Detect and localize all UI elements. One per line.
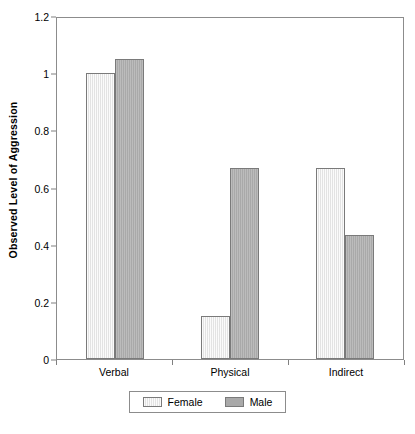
- legend: FemaleMale: [0, 391, 415, 413]
- y-tick-label: 0.6: [34, 183, 49, 195]
- legend-label-female: Female: [168, 396, 203, 408]
- bar-indirect-female: [316, 168, 345, 359]
- bar-physical-female: [201, 316, 230, 359]
- y-tick-label: 1.2: [34, 11, 49, 23]
- bar-group: [172, 18, 287, 359]
- bar-chart-figure: Observed Level of Aggression 00.20.40.60…: [0, 0, 415, 434]
- legend-entry-male: Male: [225, 396, 273, 408]
- y-axis-title: Observed Level of Aggression: [0, 0, 26, 360]
- x-tick-label-verbal: Verbal: [56, 366, 172, 378]
- y-tick-label: 0.4: [34, 240, 49, 252]
- plot-area: [56, 17, 404, 360]
- y-tick-label: 1: [43, 68, 49, 80]
- x-axis-labels: VerbalPhysicalIndirect: [56, 366, 404, 378]
- y-tick-label: 0.8: [34, 125, 49, 137]
- x-tick-label-indirect: Indirect: [288, 366, 404, 378]
- legend-entry-female: Female: [143, 396, 203, 408]
- legend-label-male: Male: [250, 396, 273, 408]
- x-tick-label-physical: Physical: [172, 366, 288, 378]
- x-tick-mark: [404, 360, 405, 365]
- y-axis-ticks: 00.20.40.60.811.2: [26, 0, 56, 360]
- bar-group: [57, 18, 172, 359]
- bar-indirect-male: [345, 235, 374, 359]
- bar-group: [288, 18, 403, 359]
- x-tick-mark: [288, 360, 289, 365]
- y-tick-label: 0.2: [34, 297, 49, 309]
- legend-swatch-male: [225, 397, 244, 407]
- bar-verbal-male: [115, 59, 144, 359]
- y-tick-label: 0: [43, 354, 49, 366]
- legend-box: FemaleMale: [129, 391, 287, 413]
- bar-verbal-female: [86, 73, 115, 359]
- bar-physical-male: [230, 168, 259, 359]
- x-tick-mark: [56, 360, 57, 365]
- bar-groups: [57, 18, 403, 359]
- x-tick-mark: [172, 360, 173, 365]
- y-axis-title-text: Observed Level of Aggression: [7, 102, 19, 259]
- legend-swatch-female: [143, 397, 162, 407]
